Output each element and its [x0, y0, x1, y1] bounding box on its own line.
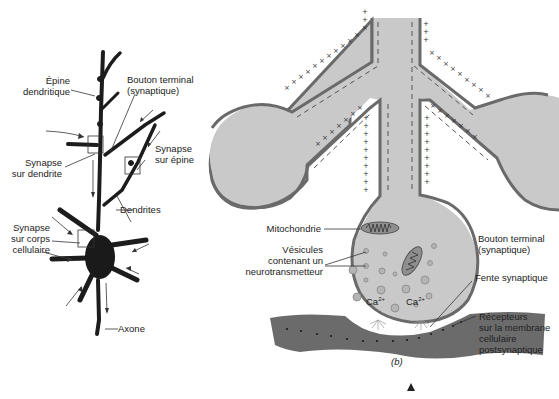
label-synapse-epine: Synapsesur épine — [155, 143, 194, 165]
svg-text:+: + — [423, 20, 429, 28]
svg-text:×: × — [340, 42, 346, 50]
svg-text:+: + — [363, 146, 369, 154]
svg-text:×: × — [436, 54, 442, 62]
svg-text:×: × — [315, 140, 321, 148]
svg-text:×: × — [450, 65, 456, 73]
figure-caption-b: (b) — [391, 356, 403, 367]
svg-text:+: + — [362, 16, 368, 24]
svg-text:+: + — [363, 178, 369, 186]
svg-text:+: + — [424, 138, 430, 146]
label-dendrites: Dendrites — [120, 204, 161, 215]
svg-text:×: × — [437, 107, 443, 115]
svg-text:×: × — [319, 57, 325, 65]
svg-text:×: × — [430, 102, 436, 110]
svg-text:×: × — [471, 81, 477, 89]
label-ca-right: Ca2+ — [406, 294, 425, 307]
svg-text:×: × — [298, 73, 304, 81]
label-fente-synaptique: Fente synaptique — [475, 272, 548, 283]
label-synapse-dendrite: Synapsesur dendrite — [12, 157, 62, 179]
label-epine: Épinedendritique — [23, 75, 70, 97]
label-vesicules: Vésiculescontenant unneurotransmetteur — [245, 244, 323, 277]
svg-text:×: × — [362, 24, 368, 32]
svg-text:+: + — [363, 130, 369, 138]
label-bouton-terminal-b: Bouton terminal(synaptique) — [478, 233, 545, 255]
svg-text:×: × — [284, 84, 290, 92]
svg-text:+: + — [363, 122, 369, 130]
svg-text:×: × — [329, 128, 335, 136]
svg-text:+: + — [363, 114, 369, 122]
label-mitochondrie: Mitochondrie — [267, 223, 321, 234]
svg-text:×: × — [336, 122, 342, 130]
svg-text:+: + — [424, 170, 430, 178]
svg-text:×: × — [354, 31, 360, 39]
svg-text:+: + — [363, 162, 369, 170]
svg-text:×: × — [443, 60, 449, 68]
svg-text:+: + — [363, 186, 369, 194]
svg-text:+: + — [424, 154, 430, 162]
svg-text:+: + — [363, 170, 369, 178]
svg-text:×: × — [451, 117, 457, 125]
svg-text:×: × — [444, 112, 450, 120]
svg-text:×: × — [326, 52, 332, 60]
svg-text:×: × — [291, 78, 297, 86]
svg-text:×: × — [465, 127, 471, 135]
svg-text:+: + — [424, 114, 430, 122]
neuron-drawing: ++× +++ ××××××××××× ××××××××× ++++++++++… — [0, 0, 559, 399]
label-synapse-corps: Synapsesur corpscellulaire — [11, 222, 50, 255]
svg-text:+: + — [424, 146, 430, 154]
svg-text:+: + — [424, 178, 430, 186]
svg-text:×: × — [478, 86, 484, 94]
svg-text:×: × — [458, 122, 464, 130]
svg-text:×: × — [457, 70, 463, 78]
svg-text:×: × — [357, 104, 363, 112]
svg-text:+: + — [423, 36, 429, 44]
svg-text:×: × — [343, 116, 349, 124]
svg-text:×: × — [333, 47, 339, 55]
svg-text:×: × — [312, 62, 318, 70]
svg-text:+: + — [363, 138, 369, 146]
svg-text:×: × — [350, 110, 356, 118]
svg-text:+: + — [424, 162, 430, 170]
label-recepteurs: Récepteurssur la membranecellulaireposts… — [479, 311, 550, 355]
svg-text:×: × — [305, 68, 311, 76]
svg-text:×: × — [485, 92, 491, 100]
label-ca-left: Ca2+ — [366, 294, 385, 307]
svg-text:×: × — [472, 133, 478, 141]
svg-text:+: + — [423, 28, 429, 36]
svg-text:+: + — [424, 130, 430, 138]
svg-text:×: × — [347, 37, 353, 45]
svg-text:×: × — [464, 76, 470, 84]
svg-text:+: + — [424, 122, 430, 130]
svg-text:×: × — [429, 49, 435, 57]
label-axone: Axone — [118, 323, 145, 334]
label-bouton-terminal-a: Bouton terminal(synaptique) — [127, 74, 194, 96]
svg-text:+: + — [363, 154, 369, 162]
svg-text:×: × — [322, 134, 328, 142]
svg-text:+: + — [362, 8, 368, 16]
